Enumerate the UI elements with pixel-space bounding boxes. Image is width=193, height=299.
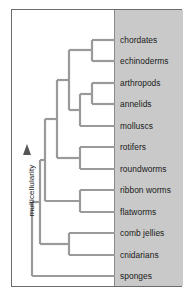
tip-label-sponges: sponges (120, 272, 152, 280)
tip-label-chordates: chordates (120, 36, 157, 44)
multicellularity-axis: multicellularity (16, 138, 38, 258)
tip-label-roundworms: roundworms (120, 165, 167, 173)
tip-label-rotifers: rotifers (120, 143, 146, 151)
tip-label-combjellies: comb jellies (120, 229, 164, 237)
tip-label-cnidarians: cnidarians (120, 251, 159, 259)
axis-label: multicellularity (27, 146, 36, 236)
tip-label-ribbonworms: ribbon worms (120, 186, 171, 194)
tip-label-annelids: annelids (120, 100, 152, 108)
tip-label-flatworms: flatworms (120, 208, 156, 216)
tip-label-molluscs: molluscs (120, 122, 153, 130)
cladogram-figure: chordates echinoderms arthropods annelid… (0, 0, 193, 299)
figure-frame: chordates echinoderms arthropods annelid… (11, 9, 182, 287)
tip-label-arthropods: arthropods (120, 79, 161, 87)
tip-label-echinoderms: echinoderms (120, 57, 169, 65)
